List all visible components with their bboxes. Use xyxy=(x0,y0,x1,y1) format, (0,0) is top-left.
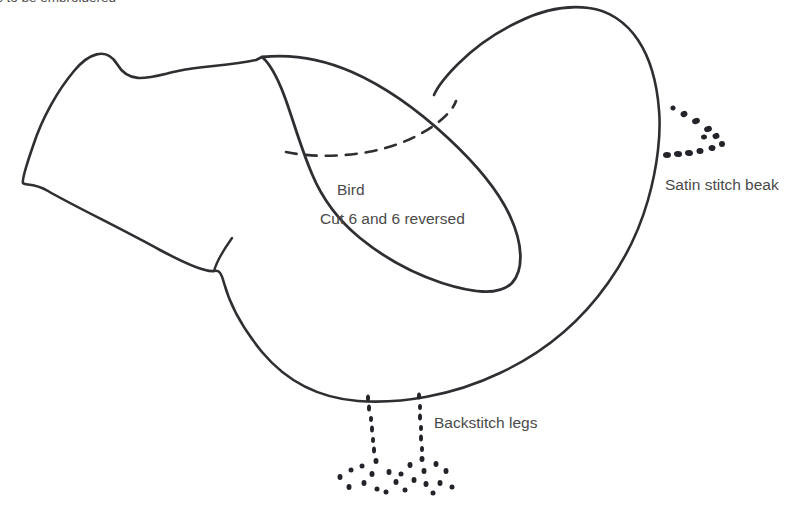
bird-wing-outline xyxy=(262,56,520,292)
right-leg-dot-15 xyxy=(438,480,443,486)
backstitch-right-leg-dots xyxy=(399,393,455,496)
left-leg-dot-6 xyxy=(374,458,379,464)
right-leg-dot-5 xyxy=(420,446,424,452)
left-leg-dot-13 xyxy=(375,487,380,492)
right-leg-dot-12 xyxy=(424,481,429,487)
beak-dot-11 xyxy=(701,134,708,140)
right-leg-dot-6 xyxy=(420,456,425,462)
right-leg-dot-0 xyxy=(417,393,421,400)
left-leg-dot-12 xyxy=(370,471,375,477)
left-leg-dot-15 xyxy=(394,479,399,485)
wing-fold-dashed-line xyxy=(286,101,456,156)
satin-stitch-beak-dots xyxy=(663,105,725,158)
beak-dot-1 xyxy=(680,110,689,118)
right-leg-dot-11 xyxy=(422,468,427,474)
beak-dot-10 xyxy=(663,152,671,158)
tail-crease-line xyxy=(214,238,232,271)
right-leg-dot-17 xyxy=(431,491,436,496)
left-leg-dot-5 xyxy=(372,447,376,454)
right-leg-dot-13 xyxy=(434,461,439,467)
left-leg-dot-14 xyxy=(387,469,392,475)
left-leg-dot-16 xyxy=(384,490,389,495)
right-leg-dot-8 xyxy=(399,472,404,477)
left-leg-dot-1 xyxy=(367,405,371,412)
left-leg-dot-7 xyxy=(360,464,365,469)
beak-dot-2 xyxy=(691,117,701,126)
left-leg-dot-10 xyxy=(347,484,352,490)
cut-instruction-label: Cut 6 and 6 reversed xyxy=(320,211,465,227)
left-leg-dot-2 xyxy=(369,416,373,422)
beak-dot-4 xyxy=(712,132,721,140)
beak-dot-5 xyxy=(719,141,725,147)
beak-dot-7 xyxy=(696,148,703,155)
left-leg-dot-3 xyxy=(370,426,374,433)
left-leg-dot-4 xyxy=(371,437,375,443)
right-leg-dot-3 xyxy=(419,425,423,431)
beak-dot-9 xyxy=(674,151,682,157)
pattern-page: s to be embroidered Bird Cut 6 and 6 rev… xyxy=(0,0,803,513)
backstitch-left-leg-dots xyxy=(338,395,399,495)
beak-dot-0 xyxy=(670,105,677,112)
beak-dot-8 xyxy=(685,150,693,156)
right-leg-dot-10 xyxy=(403,488,408,493)
right-leg-dot-1 xyxy=(418,404,422,410)
right-leg-dot-9 xyxy=(412,477,417,483)
beak-dot-6 xyxy=(708,145,716,152)
legs-instruction-label: Backstitch legs xyxy=(434,415,537,431)
beak-dot-3 xyxy=(703,125,713,133)
right-leg-dot-14 xyxy=(444,468,449,474)
left-leg-dot-0 xyxy=(366,395,370,402)
bird-pattern-drawing xyxy=(0,0,803,513)
left-leg-dot-11 xyxy=(362,480,367,486)
left-leg-dot-9 xyxy=(338,474,343,480)
piece-name-label: Bird xyxy=(337,182,365,198)
right-leg-dot-7 xyxy=(408,462,413,468)
right-leg-dot-4 xyxy=(419,435,423,442)
beak-instruction-label: Satin stitch beak xyxy=(665,177,779,193)
left-leg-dot-8 xyxy=(349,468,354,473)
right-leg-dot-2 xyxy=(418,414,422,421)
right-leg-dot-16 xyxy=(450,485,455,490)
